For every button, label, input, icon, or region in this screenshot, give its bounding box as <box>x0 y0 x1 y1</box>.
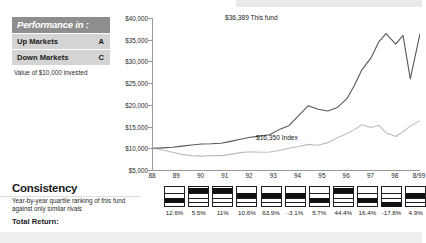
quartile-divider <box>165 193 184 194</box>
growth-chart: $40,000$35,000$30,000$25,000$20,000$15,0… <box>108 14 420 182</box>
y-axis-tick-label: $20,000 <box>125 101 148 108</box>
quartile-cell: 44.4% <box>333 186 354 217</box>
y-axis-tick <box>148 105 152 106</box>
quartile-divider <box>262 202 281 203</box>
performance-row-grade: A <box>99 37 104 46</box>
quartile-box <box>164 186 185 207</box>
quartile-cell: 16.4% <box>357 186 378 217</box>
x-axis-tick-label: 92 <box>246 172 253 180</box>
performance-row-label: Down Markets <box>17 53 68 62</box>
annual-return-value: 63.9% <box>261 209 282 217</box>
annotation-this-fund: $36,389 This fund <box>225 14 278 22</box>
quartile-band <box>286 193 305 198</box>
quartile-divider <box>237 202 256 203</box>
quartile-box <box>309 186 330 207</box>
quartile-ranking-row: 12.6%5.5%11%10.6%63.9%-3.1%5.7%44.4%16.4… <box>139 186 421 228</box>
performance-row-up-markets: Up Markets A <box>12 33 110 49</box>
quartile-box <box>381 186 402 207</box>
quartile-divider <box>286 202 305 203</box>
x-axis-labels: 88899091929394959697988/99 <box>152 172 422 184</box>
quartile-band <box>334 188 353 193</box>
quartile-box <box>236 186 257 207</box>
quartile-divider <box>382 198 401 199</box>
y-axis-tick-label: $25,000 <box>125 80 148 87</box>
x-axis-tick-label: 90 <box>197 172 204 180</box>
quartile-cell: 4.9% <box>405 186 426 217</box>
quartile-divider <box>310 193 329 194</box>
quartile-box <box>333 186 354 207</box>
series-line-this-fund <box>153 34 420 149</box>
bottom-stub-gap <box>0 228 422 230</box>
consistency-description: Year-by-year quartile ranking of this fu… <box>12 197 134 212</box>
x-axis-tick-label: 97 <box>367 172 374 180</box>
x-axis-tick-label: 96 <box>343 172 350 180</box>
annual-return-value: 10.6% <box>236 209 257 217</box>
y-axis-tick <box>148 18 152 19</box>
quartile-box <box>405 186 426 207</box>
consistency-title: Consistency <box>12 182 134 195</box>
annual-return-value: 12.6% <box>164 209 185 217</box>
quartile-divider <box>189 202 208 203</box>
quartile-divider <box>334 198 353 199</box>
y-axis-tick-label: $5,000 <box>129 167 148 174</box>
quartile-divider <box>213 198 232 199</box>
y-axis-tick-label: $40,000 <box>125 15 148 22</box>
annual-return-value: 5.7% <box>309 209 330 217</box>
quartile-box <box>285 186 306 207</box>
y-axis-tick <box>148 40 152 41</box>
y-axis-tick-label: $30,000 <box>125 58 148 65</box>
annual-return-value: 4.9% <box>405 209 426 217</box>
quartile-box <box>357 186 378 207</box>
quartile-box <box>188 186 209 207</box>
chart-svg <box>153 18 420 170</box>
quartile-cell: 5.5% <box>188 186 209 217</box>
quartile-divider <box>189 198 208 199</box>
chart-plot-area <box>153 18 420 170</box>
top-right-stub-bar <box>236 0 422 7</box>
y-axis-tick-label: $10,000 <box>125 145 148 152</box>
y-axis-labels: $40,000$35,000$30,000$25,000$20,000$15,0… <box>108 14 148 170</box>
quartile-band <box>262 193 281 198</box>
quartile-cell: 11% <box>212 186 233 217</box>
performance-panel-header: Performance in : <box>12 17 110 33</box>
quartile-band <box>165 198 184 203</box>
x-axis-tick-label: 88 <box>148 172 155 180</box>
quartile-divider <box>382 193 401 194</box>
total-return-label: Total Return: <box>12 217 134 226</box>
quartile-band <box>213 188 232 193</box>
y-axis-tick <box>148 61 152 62</box>
x-axis-line <box>152 170 420 171</box>
quartile-divider <box>358 193 377 194</box>
annotation-index: $16,350 Index <box>256 134 298 142</box>
quartile-cell: 63.9% <box>261 186 282 217</box>
performance-row-grade: C <box>99 53 104 62</box>
y-axis-tick <box>148 148 152 149</box>
quartile-band <box>310 198 329 203</box>
x-axis-tick-label: 93 <box>270 172 277 180</box>
quartile-box <box>261 186 282 207</box>
x-axis-tick-label: 89 <box>173 172 180 180</box>
quartile-cell: -3.1% <box>285 186 306 217</box>
quartile-cell: 12.6% <box>164 186 185 217</box>
annual-return-value: 5.5% <box>188 209 209 217</box>
x-axis-tick-label: 98 <box>391 172 398 180</box>
annual-return-value: -17.8% <box>381 209 402 217</box>
performance-row-down-markets: Down Markets C <box>12 49 110 65</box>
y-axis-tick <box>148 83 152 84</box>
x-axis-tick-label: 8/99 <box>413 172 425 180</box>
annual-return-value: 11% <box>212 209 233 217</box>
bottom-stub-bar <box>0 232 422 243</box>
x-axis-tick-label: 95 <box>318 172 325 180</box>
x-axis-tick-label: 91 <box>221 172 228 180</box>
quartile-cell: 10.6% <box>236 186 257 217</box>
y-axis-tick-label: $35,000 <box>125 36 148 43</box>
y-axis-tick <box>148 127 152 128</box>
quartile-band <box>358 198 377 203</box>
quartile-band <box>382 202 401 207</box>
quartile-cell: 5.7% <box>309 186 330 217</box>
y-axis-tick-label: $15,000 <box>125 123 148 130</box>
quartile-divider <box>406 202 425 203</box>
x-axis-tick-label: 94 <box>294 172 301 180</box>
y-axis-tick <box>148 170 152 171</box>
performance-panel-note: Value of $10,000 invested <box>12 65 110 77</box>
